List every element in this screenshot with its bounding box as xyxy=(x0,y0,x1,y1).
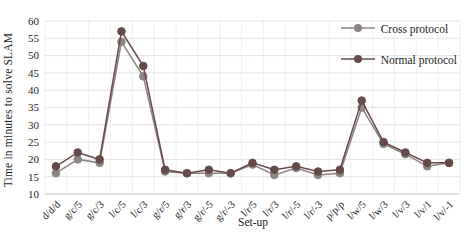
x-tick-l-r--3: l/r/-3 xyxy=(302,199,325,222)
marker-1-7 xyxy=(205,166,213,174)
legend-label-cross-protocol: Cross protocol xyxy=(381,23,448,35)
x-tick-d-d-d: d/d/d xyxy=(39,198,63,222)
cross-protocol-line-marker-icon xyxy=(341,20,375,38)
x-tick-l-c-5: l/c/5 xyxy=(107,199,128,220)
y-tick-25: 25 xyxy=(28,136,40,148)
y-tick-35: 35 xyxy=(28,101,40,113)
x-tick-l-r--5: l/r/-5 xyxy=(280,199,303,222)
marker-1-16 xyxy=(402,149,410,157)
marker-1-12 xyxy=(314,168,322,176)
marker-1-18 xyxy=(445,159,453,167)
y-tick-30: 30 xyxy=(28,119,40,131)
marker-1-17 xyxy=(423,159,431,167)
x-axis-title: Set-up xyxy=(238,216,268,228)
marker-1-14 xyxy=(358,97,366,105)
marker-1-13 xyxy=(336,166,344,174)
marker-1-2 xyxy=(96,156,104,164)
x-tick-l-v--1: l/v/-1 xyxy=(432,199,456,223)
x-tick-g-r--5: g/r/-5 xyxy=(191,199,215,223)
marker-1-3 xyxy=(118,28,126,36)
marker-1-0 xyxy=(52,163,60,171)
x-tick-g-r-3: g/r/3 xyxy=(172,199,194,221)
marker-1-9 xyxy=(249,159,257,167)
normal-protocol-line-marker-icon xyxy=(341,51,375,69)
x-tick-l-c-3: l/c/3 xyxy=(129,199,150,220)
marker-1-1 xyxy=(74,149,82,157)
y-tick-10: 10 xyxy=(28,188,40,200)
marker-1-6 xyxy=(183,169,191,177)
x-tick-p-p-p: p/p/p xyxy=(323,199,346,222)
x-tick-g-r--3: g/r/-3 xyxy=(213,199,237,223)
x-tick-l-w-3: l/w/3 xyxy=(367,199,390,222)
y-tick-15: 15 xyxy=(28,171,40,183)
y-tick-60: 60 xyxy=(28,15,40,27)
y-tick-20: 20 xyxy=(28,153,40,165)
x-tick-l-w-5: l/w/5 xyxy=(345,199,368,222)
y-tick-40: 40 xyxy=(28,84,40,96)
marker-1-10 xyxy=(271,166,279,174)
marker-1-11 xyxy=(292,163,300,171)
x-tick-g-r-5: g/r/5 xyxy=(150,199,172,221)
x-tick-g-c-3: g/c/3 xyxy=(83,199,106,222)
y-tick-45: 45 xyxy=(28,67,40,79)
y-tick-55: 55 xyxy=(28,32,40,44)
marker-1-4 xyxy=(139,62,147,70)
x-tick-l-v-3: l/v/3 xyxy=(390,199,411,220)
x-tick-g-c-5: g/c/5 xyxy=(62,199,85,222)
y-tick-50: 50 xyxy=(28,49,40,61)
marker-1-5 xyxy=(161,166,169,174)
marker-1-15 xyxy=(380,138,388,146)
legend-item-normal-protocol: Normal protocol xyxy=(341,51,457,69)
legend-item-cross-protocol: Cross protocol xyxy=(341,20,457,38)
legend: Cross protocol Normal protocol xyxy=(341,20,457,69)
y-axis-title: Time in minutes to solve SLAM xyxy=(2,5,14,215)
legend-label-normal-protocol: Normal protocol xyxy=(381,54,457,66)
x-tick-l-v-1: l/v/1 xyxy=(412,199,433,220)
slam-time-line-chart: 1015202530354045505560d/d/dg/c/5g/c/3l/c… xyxy=(0,0,465,242)
marker-1-8 xyxy=(227,169,235,177)
